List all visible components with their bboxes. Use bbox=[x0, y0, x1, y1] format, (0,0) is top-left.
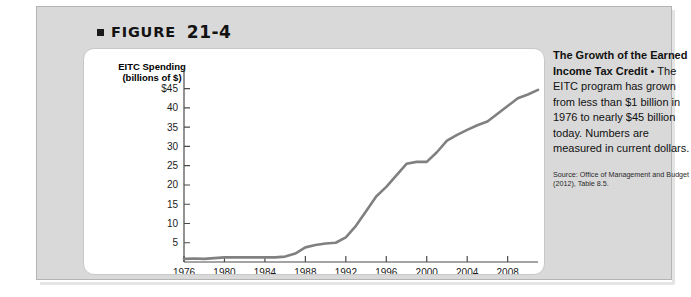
svg-text:20: 20 bbox=[167, 179, 179, 190]
figure-root: FIGURE 21-4 EITC Spending (billions of $… bbox=[0, 0, 691, 297]
svg-text:2004: 2004 bbox=[456, 267, 479, 275]
svg-text:1992: 1992 bbox=[335, 267, 358, 275]
line-chart-plot: 510152025303540$45 197619801984198819921… bbox=[84, 49, 545, 275]
svg-text:2008: 2008 bbox=[497, 267, 520, 275]
caption-column: The Growth of the Earned Income Tax Cred… bbox=[553, 48, 691, 275]
svg-text:15: 15 bbox=[167, 199, 179, 210]
svg-text:1976: 1976 bbox=[173, 267, 196, 275]
svg-text:30: 30 bbox=[167, 141, 179, 152]
svg-text:25: 25 bbox=[167, 160, 179, 171]
caption-body-text: The EITC program has grown from less tha… bbox=[553, 65, 689, 155]
eitc-spending-line bbox=[184, 90, 538, 259]
x-axis-tick-labels: 197619801984198819921996200020042008 bbox=[173, 267, 519, 275]
chart-card: EITC Spending (billions of $) 5101520253… bbox=[83, 48, 545, 275]
figure-panel: FIGURE 21-4 EITC Spending (billions of $… bbox=[36, 6, 672, 280]
svg-text:1984: 1984 bbox=[254, 267, 277, 275]
svg-text:2000: 2000 bbox=[416, 267, 439, 275]
svg-text:1996: 1996 bbox=[375, 267, 398, 275]
svg-text:5: 5 bbox=[172, 237, 178, 248]
svg-text:10: 10 bbox=[167, 218, 179, 229]
panel-shadow-bottom bbox=[40, 282, 674, 285]
caption-text: The Growth of the Earned Income Tax Cred… bbox=[553, 48, 691, 157]
figure-label: FIGURE bbox=[111, 24, 176, 40]
figure-header: FIGURE 21-4 bbox=[97, 21, 231, 43]
svg-text:35: 35 bbox=[167, 122, 179, 133]
y-axis-ticks bbox=[184, 89, 190, 243]
figure-number: 21-4 bbox=[187, 22, 232, 42]
caption-source: Source: Office of Management and Budget … bbox=[553, 170, 691, 189]
square-bullet-icon bbox=[97, 29, 104, 36]
y-axis-tick-labels: 510152025303540$45 bbox=[161, 83, 178, 248]
svg-text:1980: 1980 bbox=[213, 267, 236, 275]
caption-separator: • bbox=[648, 65, 658, 77]
svg-text:$45: $45 bbox=[161, 83, 178, 94]
svg-text:40: 40 bbox=[167, 102, 179, 113]
svg-text:1988: 1988 bbox=[294, 267, 317, 275]
